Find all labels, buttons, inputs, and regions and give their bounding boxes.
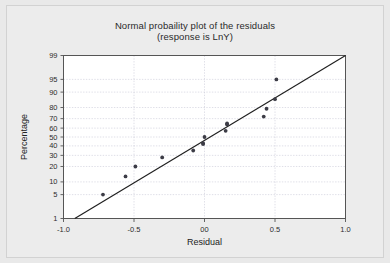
y-tick-label: 40 — [49, 141, 57, 150]
y-tick-label: 70 — [49, 114, 57, 123]
data-point — [273, 97, 277, 101]
data-point — [203, 135, 207, 139]
data-point — [101, 193, 105, 197]
y-tick-label: 60 — [49, 124, 57, 133]
y-tick-label: 30 — [49, 151, 57, 160]
y-axis-ticks: 151020304050607080909599 — [49, 51, 63, 223]
y-tick-label: 50 — [49, 133, 57, 142]
x-tick-label: -1.0 — [57, 225, 70, 234]
y-tick-label: 5 — [53, 190, 57, 199]
data-point — [224, 129, 228, 133]
y-tick-label: 1 — [53, 214, 57, 223]
plot-canvas: 151020304050607080909599 -1.0-0.5000.51.… — [0, 0, 390, 263]
y-tick-label: 99 — [49, 51, 57, 60]
x-tick-label: -0.5 — [128, 225, 141, 234]
y-axis-title: Percentage — [19, 114, 29, 160]
x-axis-ticks: -1.0-0.5000.51.0 — [57, 219, 351, 234]
data-point — [225, 122, 229, 126]
data-point — [191, 149, 195, 153]
data-point — [160, 156, 164, 160]
x-tick-label: 0.5 — [270, 225, 280, 234]
data-point — [201, 141, 205, 145]
y-tick-label: 90 — [49, 88, 57, 97]
chart-figure: Normal probaility plot of the residuals … — [0, 0, 390, 263]
y-tick-label: 95 — [49, 75, 57, 84]
y-tick-label: 10 — [49, 177, 57, 186]
x-tick-label: 1.0 — [340, 225, 350, 234]
data-point — [134, 165, 138, 169]
y-tick-label: 80 — [49, 103, 57, 112]
data-point — [275, 77, 279, 81]
data-point — [265, 107, 269, 111]
x-tick-label: 00 — [200, 225, 208, 234]
x-axis-title: Residual — [187, 237, 222, 247]
data-point — [124, 175, 128, 179]
y-tick-label: 20 — [49, 162, 57, 171]
data-point — [262, 115, 266, 119]
